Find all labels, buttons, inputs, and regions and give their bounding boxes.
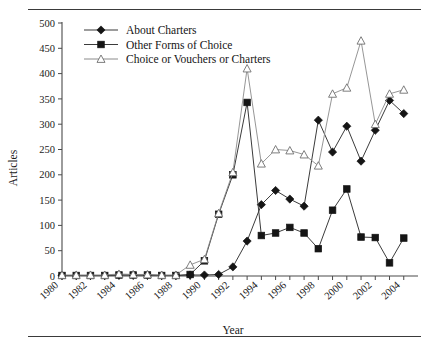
- y-tick-label: 400: [39, 68, 55, 79]
- y-tick-label: 150: [39, 195, 55, 206]
- series-markers-1: [59, 99, 407, 279]
- chart-legend: About ChartersOther Forms of ChoiceChoic…: [84, 24, 271, 65]
- x-tick-label: 1994: [237, 279, 261, 302]
- legend-marker-1: [98, 41, 105, 48]
- legend-marker-0: [97, 26, 105, 34]
- y-tick-label: 100: [39, 220, 55, 231]
- y-tick-label: 50: [45, 245, 56, 256]
- legend-label-2: Choice or Vouchers or Charters: [126, 53, 271, 65]
- x-tick-label: 1988: [151, 279, 174, 301]
- x-tick-label: 1982: [66, 279, 89, 301]
- y-tick-label: 450: [39, 43, 55, 54]
- legend-label-0: About Charters: [126, 24, 197, 36]
- y-tick-label: 350: [39, 94, 55, 105]
- line-chart: 050100150200250300350400450500 198019821…: [0, 0, 429, 345]
- x-tick-label: 1990: [180, 279, 203, 301]
- x-axis-ticks: 1980198219841986198819901992199419961998…: [37, 276, 403, 302]
- x-tick-label: 2002: [351, 279, 374, 301]
- y-tick-label: 250: [39, 144, 55, 155]
- y-axis-title: Articles: [7, 149, 19, 186]
- x-tick-label: 1992: [208, 279, 231, 301]
- x-tick-label: 2000: [322, 279, 345, 301]
- x-tick-label: 1980: [37, 279, 60, 301]
- series-line-0: [62, 100, 404, 275]
- x-tick-label: 1986: [123, 279, 146, 301]
- x-tick-label: 2004: [379, 279, 403, 302]
- y-axis-ticks: 050100150200250300350400450500: [39, 18, 62, 282]
- series-line-1: [62, 102, 404, 275]
- y-tick-label: 300: [39, 119, 55, 130]
- x-tick-label: 1984: [94, 279, 118, 302]
- series-line-2: [62, 41, 404, 275]
- series-markers-2: [58, 37, 408, 279]
- figure-container: 050100150200250300350400450500 198019821…: [0, 0, 429, 345]
- series-markers-0: [58, 96, 408, 279]
- x-axis-title: Year: [222, 324, 243, 336]
- y-tick-label: 500: [39, 18, 55, 29]
- y-tick-label: 200: [39, 169, 55, 180]
- series-group: [58, 37, 408, 280]
- legend-label-1: Other Forms of Choice: [126, 39, 232, 51]
- x-tick-label: 1998: [294, 279, 317, 301]
- x-tick-label: 1996: [265, 279, 288, 301]
